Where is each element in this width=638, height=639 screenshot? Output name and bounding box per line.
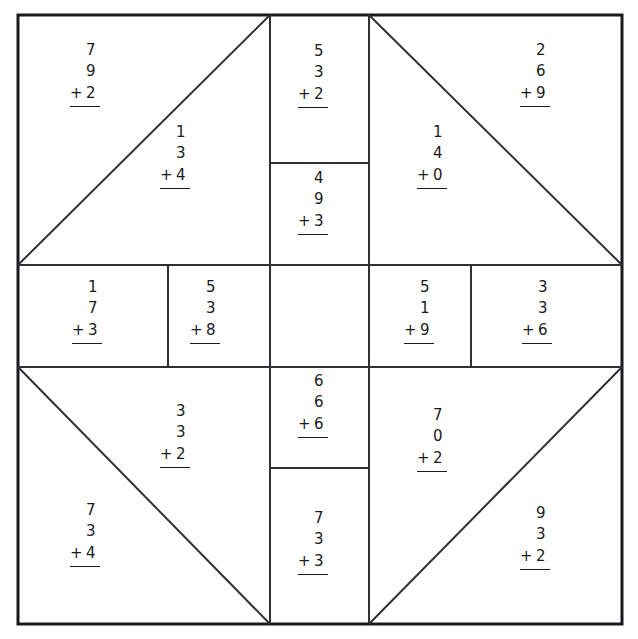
operator-row: + 2 (298, 84, 328, 108)
addend-2: 9 (86, 61, 100, 82)
addend-2: 6 (536, 61, 550, 82)
problem-top-right-inner[interactable]: 1 4 + 0 (417, 122, 447, 189)
operator-row: + 6 (298, 414, 328, 438)
addend-1: 7 (86, 500, 100, 521)
addend-2: 7 (88, 298, 102, 319)
operator-row: + 9 (520, 83, 550, 107)
problem-bottom-center-lower[interactable]: 7 3 + 3 (298, 508, 328, 575)
addend-1: 5 (206, 277, 220, 298)
operator-row: + 4 (160, 165, 190, 189)
plus-sign: + (190, 320, 203, 341)
addend-3: 8 (206, 320, 216, 341)
problem-middle-right-outer[interactable]: 3 3 + 6 (522, 277, 552, 344)
addend-3: 2 (536, 546, 546, 567)
addend-3: 3 (314, 211, 324, 232)
addend-1: 6 (314, 371, 328, 392)
addend-1: 1 (88, 277, 102, 298)
plus-sign: + (417, 448, 430, 469)
operator-row: + 2 (417, 448, 447, 472)
operator-row: + 2 (70, 83, 100, 107)
operator-row: + 3 (298, 211, 328, 235)
problem-bottom-center-upper[interactable]: 6 6 + 6 (298, 371, 328, 438)
problem-bottom-right-corner[interactable]: 9 3 + 2 (520, 503, 550, 570)
operator-row: + 6 (522, 320, 552, 344)
addend-2: 6 (314, 392, 328, 413)
problem-bottom-left-inner[interactable]: 3 3 + 2 (160, 401, 190, 468)
operator-row: + 3 (72, 320, 102, 344)
addend-2: 3 (538, 298, 552, 319)
addend-1: 4 (314, 168, 328, 189)
addend-1: 1 (176, 122, 190, 143)
operator-row: + 4 (70, 543, 100, 567)
addend-3: 3 (314, 551, 324, 572)
addend-3: 2 (433, 448, 443, 469)
addend-3: 2 (314, 84, 324, 105)
plus-sign: + (417, 165, 430, 186)
plus-sign: + (298, 551, 311, 572)
problem-top-left-inner[interactable]: 1 3 + 4 (160, 122, 190, 189)
operator-row: + 2 (520, 546, 550, 570)
operator-row: + 9 (404, 320, 434, 344)
plus-sign: + (160, 165, 173, 186)
addend-3: 3 (88, 320, 98, 341)
operator-row: + 2 (160, 444, 190, 468)
addend-3: 2 (176, 444, 186, 465)
addend-1: 7 (314, 508, 328, 529)
addend-1: 3 (538, 277, 552, 298)
addend-1: 7 (433, 405, 447, 426)
addend-2: 0 (433, 426, 447, 447)
plus-sign: + (404, 320, 417, 341)
operator-row: + 3 (298, 551, 328, 575)
addend-3: 9 (536, 83, 546, 104)
addend-1: 7 (86, 40, 100, 61)
addend-2: 1 (420, 298, 434, 319)
plus-sign: + (520, 83, 533, 104)
operator-row: + 8 (190, 320, 220, 344)
worksheet-canvas: 7 9 + 2 1 3 + 4 5 3 + 2 4 9 + 3 1 4 + (0, 0, 638, 639)
addend-2: 3 (176, 422, 190, 443)
center-empty-cell[interactable] (271, 266, 368, 366)
addend-3: 4 (86, 543, 96, 564)
addend-1: 1 (433, 122, 447, 143)
plus-sign: + (70, 83, 83, 104)
problem-bottom-right-inner[interactable]: 7 0 + 2 (417, 405, 447, 472)
problem-top-right-corner[interactable]: 2 6 + 9 (520, 40, 550, 107)
addend-2: 4 (433, 143, 447, 164)
problem-top-left-corner[interactable]: 7 9 + 2 (70, 40, 100, 107)
plus-sign: + (298, 84, 311, 105)
problem-top-center-upper[interactable]: 5 3 + 2 (298, 41, 328, 108)
addend-3: 9 (420, 320, 430, 341)
addend-2: 3 (86, 521, 100, 542)
problem-bottom-left-corner[interactable]: 7 3 + 4 (70, 500, 100, 567)
plus-sign: + (70, 543, 83, 564)
problem-middle-left-outer[interactable]: 1 7 + 3 (72, 277, 102, 344)
addend-3: 2 (86, 83, 96, 104)
addend-2: 3 (314, 529, 328, 550)
plus-sign: + (160, 444, 173, 465)
addend-1: 5 (420, 277, 434, 298)
addend-2: 3 (536, 524, 550, 545)
addend-1: 5 (314, 41, 328, 62)
addend-2: 3 (314, 62, 328, 83)
plus-sign: + (298, 211, 311, 232)
addend-1: 9 (536, 503, 550, 524)
addend-1: 3 (176, 401, 190, 422)
plus-sign: + (520, 546, 533, 567)
plus-sign: + (72, 320, 85, 341)
addend-2: 3 (206, 298, 220, 319)
addend-3: 0 (433, 165, 443, 186)
addend-2: 9 (314, 189, 328, 210)
operator-row: + 0 (417, 165, 447, 189)
problem-top-center-lower[interactable]: 4 9 + 3 (298, 168, 328, 235)
plus-sign: + (298, 414, 311, 435)
addend-2: 3 (176, 143, 190, 164)
plus-sign: + (522, 320, 535, 341)
addend-3: 4 (176, 165, 186, 186)
addend-3: 6 (538, 320, 548, 341)
problem-middle-left-inner[interactable]: 5 3 + 8 (190, 277, 220, 344)
problem-middle-right-inner[interactable]: 5 1 + 9 (404, 277, 434, 344)
addend-1: 2 (536, 40, 550, 61)
addend-3: 6 (314, 414, 324, 435)
